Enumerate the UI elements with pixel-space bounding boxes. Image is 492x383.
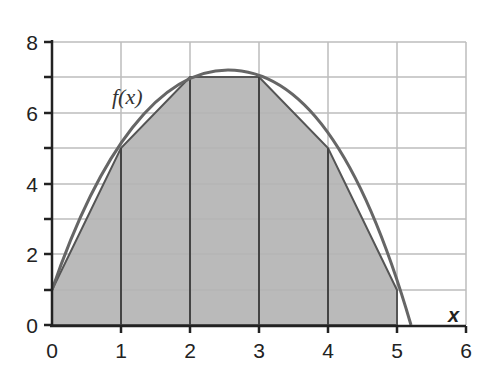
y-tick-0: 0 <box>26 314 38 337</box>
curve-label: f(x) <box>112 84 143 109</box>
y-tick-6: 6 <box>26 102 38 125</box>
chart: 0 2 4 6 8 0 1 2 3 4 5 6 f(x) x <box>0 0 492 383</box>
x-axis-label: x <box>447 304 460 326</box>
y-tick-4: 4 <box>26 173 38 196</box>
y-tick-8: 8 <box>26 31 38 54</box>
trapezoid-area <box>52 77 397 325</box>
x-tick-0: 0 <box>46 339 58 362</box>
x-tick-2: 2 <box>184 339 196 362</box>
x-tick-5: 5 <box>391 339 403 362</box>
x-tick-4: 4 <box>322 339 334 362</box>
x-tick-1: 1 <box>115 339 127 362</box>
x-tick-6: 6 <box>460 339 472 362</box>
y-tick-2: 2 <box>26 243 38 266</box>
x-tick-3: 3 <box>253 339 265 362</box>
